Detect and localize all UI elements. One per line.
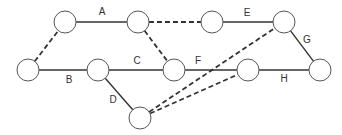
node-n3 [127,11,149,33]
node-n8 [237,59,259,81]
node-n5 [273,11,295,33]
edge-label-a: A [99,6,106,17]
node-n6 [87,59,109,81]
dummy-activity-edge [145,31,168,61]
node-n2 [54,11,76,33]
edge-label-b: B [66,74,73,85]
node-n9 [309,59,331,81]
dummy-activity-edge [150,74,238,113]
edge-label-c: C [133,55,140,66]
dummy-activity-edge [35,31,59,62]
edge-label-h: H [280,73,287,84]
node-n10 [129,107,151,129]
edge-label-f: F [195,55,201,66]
edge-label-g: G [303,34,311,45]
edge-label-e: E [244,7,251,18]
edge-label-d: D [109,94,116,105]
node-n7 [163,59,185,81]
node-n4 [201,11,223,33]
node-n1 [17,59,39,81]
network-diagram: ABCDEFGH [0,0,342,135]
